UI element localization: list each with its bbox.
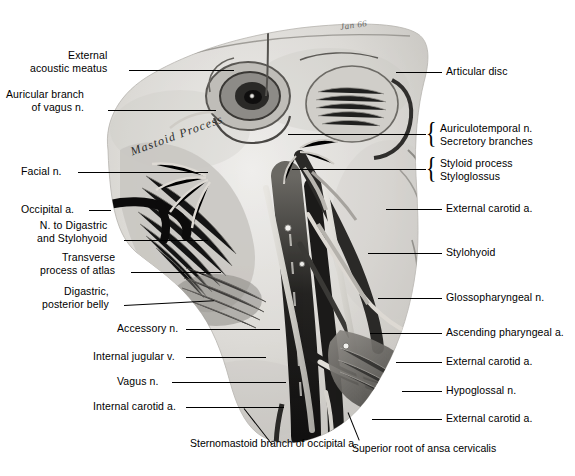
label-line-1: Accessory n. — [117, 322, 178, 334]
label-line-1: Articular disc — [446, 65, 508, 77]
label-line-2: process of atlas — [24, 264, 115, 277]
label-styloid-group: Styloid process Styloglossus — [440, 157, 513, 182]
leader-hypoglossal-n — [402, 391, 442, 392]
leader-glossopharyngeal-n — [378, 298, 442, 299]
label-transverse-process-of-atlas: Transverse process of atlas — [24, 251, 115, 276]
brace-styloid-group: { — [426, 152, 437, 182]
label-internal-jugular-v: Internal jugular v. — [93, 350, 175, 363]
label-external-carotid-a-lower: External carotid a. — [446, 412, 533, 425]
label-external-carotid-a-mid: External carotid a. — [446, 355, 533, 368]
caption-superior-root-of-ansa-cervicalis: Superior root of ansa cervicalis — [352, 442, 496, 455]
label-line-2: of vagus n. — [6, 101, 84, 114]
leader-stylohyoid — [368, 253, 442, 254]
label-external-acoustic-meatus: External acoustic meatus — [14, 49, 107, 74]
label-line-1: Internal carotid a. — [93, 400, 176, 412]
label-line-2: acoustic meatus — [14, 62, 107, 75]
label-line-1: Transverse — [62, 251, 115, 263]
caption-sternomastoid-branch-of-occipital-a: Sternomastoid branch of occipital a. — [190, 437, 357, 450]
leader-n-to-digastric-and-stylohyoid — [124, 240, 208, 241]
label-line-1: Facial n. — [21, 165, 62, 177]
label-line-1: N. to Digastric — [40, 219, 107, 231]
label-occipital-a: Occipital a. — [21, 203, 74, 216]
leader-internal-jugular-v — [186, 357, 266, 358]
label-line-1: External carotid a. — [446, 202, 533, 214]
label-line-1: External carotid a. — [446, 355, 533, 367]
label-line-1: Stylohyoid — [446, 246, 495, 258]
leader-external-carotid-a-upper — [386, 209, 442, 210]
leader-articular-disc — [396, 72, 442, 73]
label-internal-carotid-a: Internal carotid a. — [93, 400, 176, 413]
label-line-1: Glossopharyngeal n. — [446, 291, 544, 303]
label-articular-disc: Articular disc — [446, 65, 508, 78]
label-line-2: Styloglossus — [440, 170, 513, 183]
leader-auriculotemporal-group — [288, 134, 426, 135]
leader-transverse-process-of-atlas — [131, 272, 221, 273]
label-vagus-n: Vagus n. — [117, 375, 158, 388]
label-line-1: Occipital a. — [21, 203, 74, 215]
leader-external-carotid-a-lower — [372, 419, 442, 420]
label-line-1: Internal jugular v. — [93, 350, 175, 362]
leader-auricular-branch-of-vagus — [108, 110, 216, 111]
leader-facial-n — [78, 172, 208, 173]
label-external-carotid-a-upper: External carotid a. — [446, 202, 533, 215]
label-accessory-n: Accessory n. — [117, 322, 178, 335]
label-hypoglossal-n: Hypoglossal n. — [446, 384, 516, 397]
leader-ascending-pharyngeal-a — [370, 333, 442, 334]
leader-external-carotid-a-mid — [396, 362, 442, 363]
caption-line-2: occipital a. — [307, 437, 357, 449]
label-line-1: Auricular branch — [6, 88, 84, 100]
label-facial-n: Facial n. — [21, 165, 62, 178]
label-line-1: Styloid process — [440, 157, 513, 169]
label-line-1: Ascending pharyngeal a. — [446, 326, 564, 338]
label-line-2: Secretory branches — [440, 135, 533, 148]
label-auriculotemporal-group: Auriculotemporal n. Secretory branches — [440, 122, 533, 147]
label-stylohyoid: Stylohyoid — [446, 246, 495, 259]
label-line-1: Digastric, — [64, 285, 109, 297]
label-line-1: External — [68, 49, 107, 61]
leader-occipital-a — [89, 210, 111, 211]
caption-line-1: Superior root of ansa cervicalis — [352, 442, 496, 454]
caption-line-1: Sternomastoid branch of — [190, 437, 304, 449]
label-line-2: and Stylohyoid — [21, 232, 107, 245]
leader-styloid-group — [292, 169, 426, 170]
label-line-1: Hypoglossal n. — [446, 384, 516, 396]
label-digastric-posterior-belly: Digastric, posterior belly — [26, 285, 109, 310]
leader-external-acoustic-meatus — [129, 70, 234, 71]
label-line-1: Auriculotemporal n. — [440, 122, 532, 134]
brace-auriculotemporal-group: { — [426, 117, 437, 147]
label-line-1: External carotid a. — [446, 412, 533, 424]
label-n-to-digastric-and-stylohyoid: N. to Digastric and Stylohyoid — [21, 219, 107, 244]
label-auricular-branch-of-vagus: Auricular branch of vagus n. — [6, 88, 84, 113]
label-line-2: posterior belly — [26, 298, 109, 311]
leader-vagus-n — [172, 382, 286, 383]
label-glossopharyngeal-n: Glossopharyngeal n. — [446, 291, 544, 304]
leader-internal-carotid-a — [186, 407, 284, 408]
leader-accessory-n — [186, 329, 280, 330]
label-ascending-pharyngeal-a: Ascending pharyngeal a. — [446, 326, 564, 339]
anatomy-figure-page: Mastoid Process Jan 66 External acoustic… — [0, 0, 575, 476]
label-line-1: Vagus n. — [117, 375, 158, 387]
